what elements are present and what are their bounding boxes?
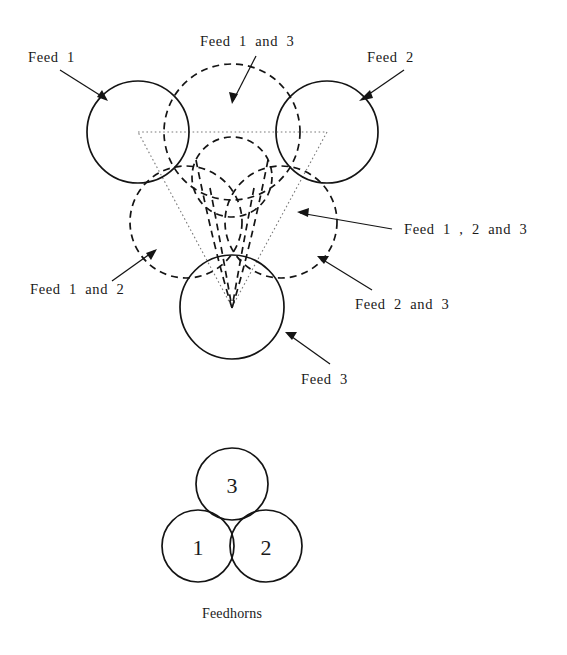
label-feed-1-and-2: Feed 1 and 2 [30,281,124,297]
dashed-beam-triple-right-edge [232,160,268,308]
arrowhead-feed-2 [359,90,373,101]
label-feed-1-and-3: Feed 1 and 3 [200,33,294,49]
dotted-center-triangle [138,132,327,307]
feedhorn-label-1: 1 [193,535,204,560]
leader-feed-3 [288,334,330,364]
label-feed-2-and-3: Feed 2 and 3 [355,296,449,312]
figure-root: Feed 1 Feed 1 and 3 Feed 2 Feed 1 , 2 an… [0,0,567,655]
feedhorns-caption: Feedhorns [202,606,262,621]
dashed-beam-triple-inner-left [210,188,232,308]
dashed-beam-triple-upper [192,137,272,217]
leader-feed-2-and-3 [320,258,372,290]
label-feed-1: Feed 1 [28,49,75,65]
arrowhead-feed-1-and-3 [229,92,238,104]
label-feed-2: Feed 2 [367,49,414,65]
coverage-diagram: Feed 1 Feed 1 and 3 Feed 2 Feed 1 , 2 an… [0,0,567,655]
feedhorn-label-2: 2 [261,535,272,560]
leader-feed-1-2-and-3 [300,213,392,229]
arrowhead-feed-1-and-2 [146,249,157,260]
dashed-beam-triple-left-edge [196,160,232,308]
label-feed-1-2-and-3: Feed 1 , 2 and 3 [404,221,527,237]
label-feed-3: Feed 3 [301,371,348,387]
leader-feed-1-and-2 [112,251,154,281]
feedhorn-label-3: 3 [227,473,238,498]
arrowhead-feed-1-2-and-3 [297,208,309,217]
